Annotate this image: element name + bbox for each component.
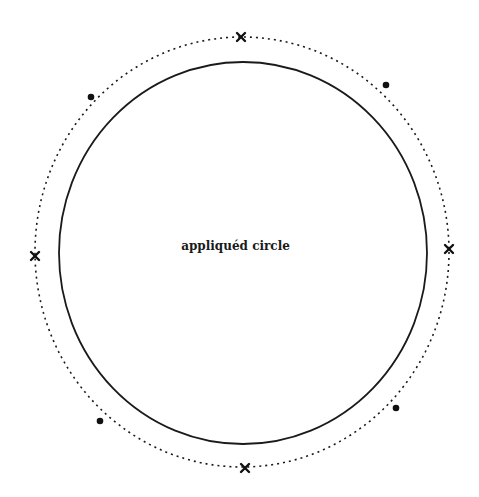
center-label: appliquéd circle	[181, 239, 290, 253]
inner-solid-circle	[59, 62, 427, 444]
dot-marker-bottom-right-icon	[393, 405, 400, 412]
dot-markers	[88, 82, 400, 425]
center-label-container: appliquéd circle	[0, 239, 479, 253]
dot-marker-top-right-icon	[383, 82, 390, 89]
dot-marker-top-left-icon	[88, 94, 95, 101]
cross-marker-bottom-icon	[241, 464, 249, 472]
dot-marker-bottom-left-icon	[97, 418, 104, 425]
diagram-canvas: appliquéd circle	[0, 0, 479, 497]
